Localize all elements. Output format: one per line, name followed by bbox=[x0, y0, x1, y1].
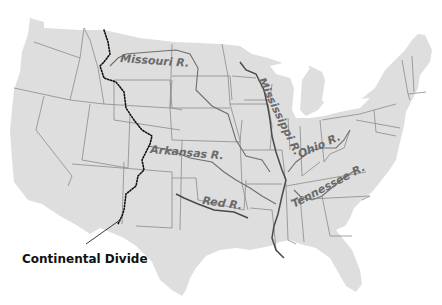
label-continental-divide: Continental Divide bbox=[22, 252, 148, 266]
us-rivers-map: Missouri R. Mississippi R. Arkansas R. O… bbox=[0, 0, 442, 305]
